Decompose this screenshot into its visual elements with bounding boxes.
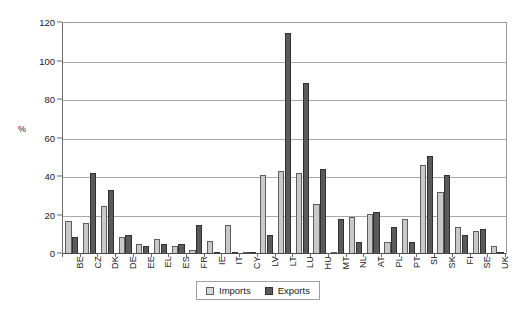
- x-tick-mark: [487, 253, 488, 257]
- bar-group: [98, 23, 116, 254]
- bar-group: [293, 23, 311, 254]
- x-tick-mark: [204, 253, 205, 257]
- x-tick-label: LU: [305, 256, 315, 268]
- bar-group: [400, 23, 418, 254]
- bar-cz-imports: [83, 223, 89, 254]
- y-tick-label: 40: [29, 171, 55, 182]
- x-axis-line: [62, 253, 506, 254]
- bar-lt-imports: [278, 171, 284, 254]
- y-tick-mark: [57, 214, 62, 215]
- bar-dk-exports: [108, 190, 114, 254]
- y-tick-mark: [57, 176, 62, 177]
- bar-group: [347, 23, 365, 254]
- x-tick-mark: [115, 253, 116, 257]
- bar-chart: % 020406080100120 Imports Exports BECZDK…: [0, 0, 530, 315]
- bar-lv-exports: [267, 235, 273, 254]
- bar-group: [240, 23, 258, 254]
- plot-area: [62, 22, 507, 254]
- bar-at-exports: [373, 212, 379, 254]
- bar-si-exports: [427, 156, 433, 254]
- bar-cz-exports: [90, 173, 96, 254]
- x-tick-mark: [381, 253, 382, 257]
- bar-group: [453, 23, 471, 254]
- bar-pl-exports: [391, 227, 397, 254]
- y-tick-mark: [57, 22, 62, 23]
- x-tick-mark: [416, 253, 417, 257]
- bar-ie-imports: [207, 241, 213, 254]
- y-tick-mark: [57, 60, 62, 61]
- x-tick-label: PT: [412, 256, 422, 268]
- x-tick-mark: [80, 253, 81, 257]
- bar-group: [435, 23, 453, 254]
- x-tick-mark: [452, 253, 453, 257]
- bar-group: [63, 23, 81, 254]
- bar-lv-imports: [260, 175, 266, 254]
- bar-fi-exports: [462, 235, 468, 254]
- chart-legend: Imports Exports: [196, 281, 320, 300]
- y-tick-label: 60: [29, 132, 55, 143]
- bar-lu-imports: [296, 173, 302, 254]
- y-axis-label: %: [18, 124, 26, 134]
- x-tick-mark: [292, 253, 293, 257]
- x-tick-mark: [363, 253, 364, 257]
- x-tick-mark: [239, 253, 240, 257]
- bar-fr-exports: [196, 225, 202, 254]
- x-tick-label: PL: [394, 256, 404, 267]
- bar-el-imports: [154, 239, 160, 254]
- x-tick-label: DK: [110, 256, 120, 269]
- x-tick-mark: [328, 253, 329, 257]
- bar-hu-imports: [313, 204, 319, 254]
- bar-lu-exports: [303, 83, 309, 254]
- x-tick-label: BE: [75, 256, 85, 268]
- bar-fi-imports: [455, 227, 461, 254]
- x-tick-label: MT: [341, 256, 351, 269]
- legend-swatch-imports: [206, 287, 214, 295]
- x-tick-label: LV: [270, 256, 280, 267]
- x-tick-mark: [151, 253, 152, 257]
- bar-group: [152, 23, 170, 254]
- bar-mt-exports: [338, 219, 344, 254]
- bar-sk-exports: [444, 175, 450, 254]
- legend-label-imports: Imports: [219, 285, 251, 296]
- x-tick-mark: [434, 253, 435, 257]
- bar-de-exports: [125, 235, 131, 254]
- x-tick-label: EL: [163, 256, 173, 267]
- legend-item-imports: Imports: [206, 285, 251, 296]
- y-tick-label: 80: [29, 94, 55, 105]
- bar-group: [169, 23, 187, 254]
- y-tick-label: 20: [29, 209, 55, 220]
- bar-group: [329, 23, 347, 254]
- x-tick-mark: [275, 253, 276, 257]
- bar-group: [364, 23, 382, 254]
- y-tick-mark: [57, 137, 62, 138]
- legend-swatch-exports: [265, 287, 273, 295]
- x-tick-mark: [133, 253, 134, 257]
- bar-be-imports: [65, 221, 71, 254]
- x-tick-mark: [505, 253, 506, 257]
- bar-group: [222, 23, 240, 254]
- legend-item-exports: Exports: [265, 285, 310, 296]
- bar-group: [471, 23, 489, 254]
- y-tick-label: 0: [29, 248, 55, 259]
- bar-group: [382, 23, 400, 254]
- bar-pt-imports: [402, 219, 408, 254]
- x-tick-label: FR: [199, 256, 209, 268]
- y-axis-tick-labels: 020406080100120: [29, 0, 55, 315]
- x-tick-mark: [257, 253, 258, 257]
- x-tick-mark: [310, 253, 311, 257]
- x-tick-label: UK: [500, 256, 510, 269]
- x-tick-label: EE: [146, 256, 156, 268]
- x-tick-label: AT: [376, 256, 386, 267]
- bar-lt-exports: [285, 33, 291, 254]
- bar-hu-exports: [320, 169, 326, 254]
- bar-group: [187, 23, 205, 254]
- bar-be-exports: [72, 237, 78, 254]
- bar-group: [488, 23, 506, 254]
- bar-at-imports: [367, 214, 373, 254]
- x-tick-mark: [97, 253, 98, 257]
- x-tick-mark: [186, 253, 187, 257]
- x-tick-label: IE: [217, 256, 227, 265]
- bar-group: [116, 23, 134, 254]
- x-tick-label: LT: [288, 256, 298, 266]
- bar-dk-imports: [101, 206, 107, 254]
